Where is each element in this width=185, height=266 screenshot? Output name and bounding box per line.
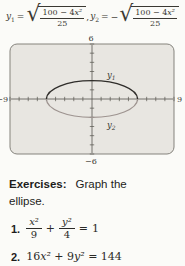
textbook-snippet: y1 = √ 100 − 4x² 25 , y2 = − √ 100 − 4x²… <box>0 0 185 266</box>
graph-svg: 6 y1 y2 −9 9 −6 <box>0 32 185 170</box>
exercises-heading: Exercises:Graph the ellipse. <box>9 176 141 209</box>
radical-expression-2: √ 100 − 4x² 25 <box>119 5 179 29</box>
numerator-1: 100 − 4x² <box>40 8 84 18</box>
denominator-2: 25 <box>133 18 177 29</box>
ymin-label: −6 <box>85 157 97 166</box>
fraction-1: 100 − 4x² 25 <box>40 8 84 29</box>
exercise-2-number: 2. <box>11 251 20 263</box>
y1-subscript: 1 <box>11 16 15 23</box>
y2-variable: y2 <box>90 11 99 23</box>
y2-subscript: 2 <box>95 16 99 23</box>
exercises-label: Exercises: <box>9 178 67 190</box>
radicand-2: 100 − 4x² 25 <box>131 6 179 29</box>
y2-curve-sub: 2 <box>111 124 116 131</box>
exercise-item-1: 1. x²9 + y²4 = 1 <box>11 216 185 241</box>
equals-sign-2: = <box>101 12 109 22</box>
fraction-2: 100 − 4x² 25 <box>133 8 177 29</box>
y1-curve-sub: 1 <box>112 74 116 81</box>
comma-separator: , <box>86 12 89 22</box>
exercise-item-2: 2. 16x² + 9y² = 144 <box>11 250 185 263</box>
radical-sign: √ <box>26 3 40 25</box>
ex1-f1-numerator: x² <box>26 216 42 228</box>
numerator-2: 100 − 4x² <box>133 8 177 18</box>
numerator-coef-2: 100 − 4 <box>135 8 167 17</box>
exercise-1-fraction-2: y²4 <box>59 216 75 241</box>
ex2-var-2: y² <box>74 250 85 263</box>
xmax-label: 9 <box>177 95 182 104</box>
numerator-coef-1: 100 − 4 <box>42 8 74 17</box>
ex1-f2-numerator: y² <box>59 216 75 228</box>
plus-sign: + <box>46 222 55 235</box>
calculator-graph: 6 y1 y2 −9 9 −6 <box>0 32 185 170</box>
ex1-equals: = <box>79 222 88 235</box>
ex1-rhs: 1 <box>92 222 99 235</box>
radical-sign-2: √ <box>119 3 133 25</box>
ex1-f2-denominator: 4 <box>59 228 75 241</box>
exercise-1-fraction-1: x²9 <box>26 216 42 241</box>
formula-line: y1 = √ 100 − 4x² 25 , y2 = − √ 100 − 4x²… <box>0 0 185 32</box>
ex2-var-1: x² <box>40 250 51 263</box>
radicand-1: 100 − 4x² 25 <box>38 6 86 29</box>
numerator-var-2: x² <box>167 8 175 17</box>
numerator-var-1: x² <box>75 8 83 17</box>
equals-sign: = <box>17 12 25 22</box>
exercise-1-number: 1. <box>11 223 20 235</box>
exercises-section: Exercises:Graph the ellipse. 1. x²9 + y²… <box>0 170 185 263</box>
radical-expression-1: √ 100 − 4x² 25 <box>26 5 86 29</box>
ex2-coef-1: 16 <box>26 250 40 263</box>
ex2-coef-2: + 9 <box>51 250 74 263</box>
negative-sign: − <box>111 12 119 22</box>
ex2-rhs: = 144 <box>85 250 122 263</box>
y1-variable: y1 <box>6 11 15 23</box>
exercise-2-equation: 16x² + 9y² = 144 <box>26 250 122 263</box>
denominator-1: 25 <box>40 18 84 29</box>
ymax-label: 6 <box>88 34 93 43</box>
ex1-f1-denominator: 9 <box>26 228 42 241</box>
xmin-label: −9 <box>0 95 8 104</box>
